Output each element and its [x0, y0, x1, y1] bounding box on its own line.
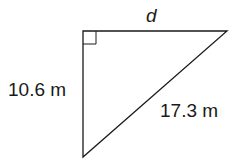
right-triangle	[83, 31, 227, 157]
top-side-label: d	[146, 5, 158, 26]
triangle-diagram: d 10.6 m 17.3 m	[0, 0, 246, 159]
right-angle-marker	[83, 31, 96, 44]
hypotenuse-label: 17.3 m	[160, 100, 218, 121]
left-side-label: 10.6 m	[8, 79, 66, 100]
